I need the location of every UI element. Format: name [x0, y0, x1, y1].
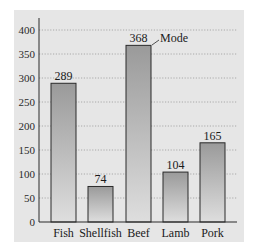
- y-tick-label: 350: [19, 48, 36, 60]
- category-label: Beef: [127, 226, 150, 240]
- bar-rect: [126, 45, 151, 222]
- value-label: 74: [95, 172, 107, 186]
- mode-label: Mode: [160, 31, 188, 45]
- category-label: Fish: [53, 226, 74, 240]
- bar-chart: 050100150200250300350400 289Fish74Shellf…: [0, 0, 255, 252]
- y-tick-label: 200: [19, 120, 36, 132]
- y-tick-label: 300: [19, 72, 36, 84]
- y-tick-label: 50: [24, 192, 36, 204]
- bar-rect: [200, 143, 225, 222]
- y-tick-label: 150: [19, 144, 36, 156]
- value-label: 165: [204, 129, 222, 143]
- bar-rect: [88, 186, 113, 222]
- category-label: Lamb: [162, 226, 190, 240]
- bar-shellfish: 74Shellfish: [79, 172, 122, 240]
- bar-lamb: 104Lamb: [162, 158, 190, 240]
- bar-rect: [163, 172, 188, 222]
- category-label: Pork: [201, 226, 224, 240]
- value-label: 104: [167, 158, 185, 172]
- y-tick-label: 0: [30, 216, 36, 228]
- value-label: 368: [130, 31, 148, 45]
- y-tick-label: 400: [19, 24, 36, 36]
- category-label: Shellfish: [79, 226, 122, 240]
- bar-beef: 368Beef: [126, 31, 151, 240]
- y-tick-label: 100: [19, 168, 36, 180]
- bars: 289Fish74Shellfish368Beef104Lamb165Pork: [51, 31, 225, 240]
- bar-pork: 165Pork: [200, 129, 225, 240]
- bar-rect: [51, 83, 76, 222]
- y-tick-label: 250: [19, 96, 36, 108]
- mode-annotation: Mode: [152, 31, 188, 45]
- mode-leader-line: [152, 40, 159, 45]
- value-label: 289: [55, 69, 73, 83]
- bar-fish: 289Fish: [51, 69, 76, 240]
- y-axis-ticks: 050100150200250300350400: [19, 24, 36, 228]
